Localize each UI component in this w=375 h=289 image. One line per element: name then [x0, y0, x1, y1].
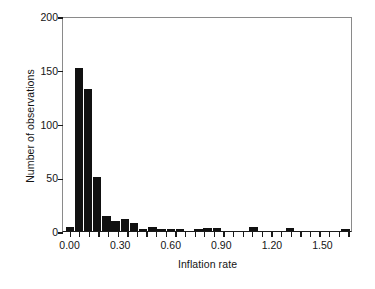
y-tick-label: 100	[32, 119, 58, 131]
x-tick-label: 0.30	[95, 239, 145, 251]
x-tick-mark	[166, 232, 167, 237]
x-axis-ticks	[62, 232, 353, 238]
x-tick-mark	[339, 232, 340, 237]
bar	[66, 227, 74, 231]
x-tick-mark	[137, 232, 138, 237]
bar	[121, 219, 129, 231]
x-tick-mark	[214, 232, 215, 237]
bar	[139, 229, 147, 231]
x-tick-mark	[233, 232, 234, 237]
x-tick-mark	[300, 232, 301, 237]
y-tick-mark	[58, 17, 63, 18]
x-tick-mark	[79, 232, 80, 237]
bar	[249, 227, 257, 231]
x-tick-mark	[204, 232, 205, 237]
x-tick-label: 0.00	[45, 239, 95, 251]
x-tick-label: 1.50	[297, 239, 347, 251]
histogram-figure: Number of observations 050100150200 0.00…	[0, 0, 375, 289]
y-tick-mark	[58, 125, 63, 126]
x-tick-label: 1.20	[247, 239, 297, 251]
x-tick-mark	[291, 232, 292, 237]
x-tick-mark	[89, 232, 90, 237]
x-tick-mark	[348, 232, 349, 237]
x-axis-tick-labels: 0.000.300.600.901.201.50	[0, 239, 375, 253]
x-tick-mark	[185, 232, 186, 237]
y-tick-label: 200	[32, 11, 58, 23]
bar	[93, 177, 101, 231]
y-tick-label: 0	[32, 226, 58, 238]
x-tick-mark	[252, 232, 253, 237]
bar	[157, 229, 165, 231]
x-tick-mark	[70, 232, 71, 237]
x-tick-mark	[146, 232, 147, 237]
x-tick-mark	[98, 232, 99, 237]
bar	[102, 216, 110, 231]
x-tick-mark	[310, 232, 311, 237]
bar	[341, 229, 349, 231]
x-tick-mark	[127, 232, 128, 237]
bar	[75, 68, 83, 231]
x-tick-mark	[329, 232, 330, 237]
x-tick-mark	[156, 232, 157, 237]
bar-series	[63, 18, 351, 231]
y-tick-label: 150	[32, 65, 58, 77]
x-tick-mark	[108, 232, 109, 237]
x-tick-mark	[175, 232, 176, 237]
bar	[167, 229, 175, 231]
x-axis-title: Inflation rate	[62, 258, 353, 270]
x-tick-label: 0.90	[196, 239, 246, 251]
x-tick-mark	[243, 232, 244, 237]
y-tick-label: 50	[32, 172, 58, 184]
y-tick-mark	[58, 71, 63, 72]
bar	[84, 89, 92, 231]
x-tick-mark	[271, 232, 272, 237]
bar	[194, 229, 202, 231]
bar	[203, 228, 211, 231]
bar	[213, 228, 221, 231]
x-tick-mark	[195, 232, 196, 237]
x-tick-mark	[262, 232, 263, 237]
x-tick-label: 0.60	[146, 239, 196, 251]
x-tick-mark	[223, 232, 224, 237]
bar	[286, 228, 294, 231]
bar	[176, 229, 184, 231]
x-tick-mark	[118, 232, 119, 237]
x-tick-mark	[319, 232, 320, 237]
bar	[148, 227, 156, 231]
plot-area	[62, 17, 352, 232]
bar	[130, 223, 138, 231]
y-tick-mark	[58, 179, 63, 180]
x-tick-mark	[281, 232, 282, 237]
bar	[111, 221, 119, 231]
